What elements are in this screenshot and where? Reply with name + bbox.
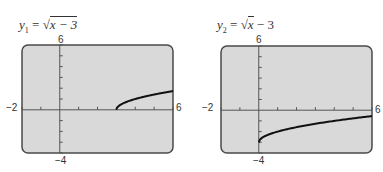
graph-panel-y2: y2 = √x − 3 6 −4 −2 6 xyxy=(190,0,380,172)
graph-panel-y1: y1 = √x − 3 6 −4 −2 6 xyxy=(0,0,190,172)
plot-area-y2 xyxy=(190,0,383,172)
calculator-screen xyxy=(221,46,372,153)
plot-area-y1 xyxy=(0,0,190,172)
calculator-screen xyxy=(22,45,173,153)
